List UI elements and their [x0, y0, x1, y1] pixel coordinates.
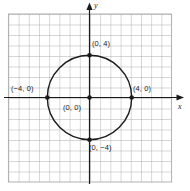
y-axis-label: y: [94, 2, 98, 10]
point-right: [129, 95, 134, 100]
label-point-origin: (0, 0): [63, 104, 81, 112]
point-origin: [87, 95, 92, 100]
graph-canvas: [0, 0, 190, 191]
label-point-top: (0, 4): [92, 40, 110, 48]
point-top: [87, 53, 92, 58]
label-point-left: (−4, 0): [11, 85, 34, 93]
label-point-bottom: (0, −4): [89, 144, 112, 152]
point-bottom: [87, 137, 92, 142]
x-axis-arrowhead: [177, 94, 185, 100]
coordinate-plane-figure: (0, 4) (4, 0) (0, −4) (−4, 0) (0, 0) y x: [0, 0, 190, 191]
x-axis-label: x: [178, 103, 182, 111]
label-point-right: (4, 0): [133, 85, 151, 93]
point-left: [45, 95, 50, 100]
y-axis-arrowhead: [86, 3, 92, 11]
